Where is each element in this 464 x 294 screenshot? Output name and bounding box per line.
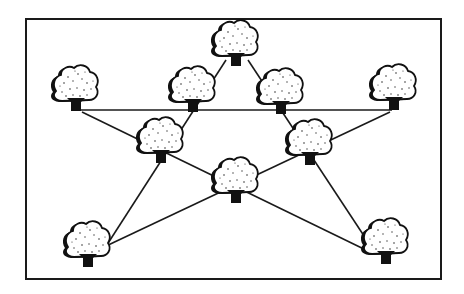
tree-icon-bottom-left (63, 221, 110, 267)
tree-icon-center (211, 157, 258, 203)
tree-icon-mid-left (136, 117, 183, 163)
tree-icon-inner-left (168, 66, 215, 112)
tree-icon-bottom-right (361, 218, 408, 264)
tree-icon-outer-left (51, 65, 98, 111)
connecting-lines (80, 60, 392, 252)
tree-icon-outer-right (369, 64, 416, 110)
tree-icon-top (211, 20, 258, 66)
tree-puzzle-diagram (0, 0, 464, 294)
tree-icon-inner-right (256, 68, 303, 114)
